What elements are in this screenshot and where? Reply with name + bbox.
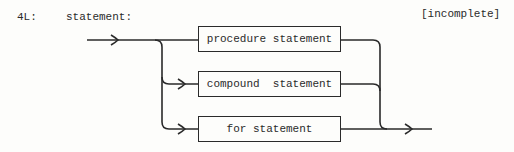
compound-statement-box: compound statement	[198, 71, 341, 97]
figure-label: 4L:	[17, 11, 37, 23]
rule-name: statement:	[66, 11, 132, 23]
box-label: procedure statement	[207, 33, 332, 45]
box-label: compound statement	[207, 78, 332, 90]
for-statement-box: for statement	[198, 116, 341, 142]
incomplete-note: [incomplete]	[421, 8, 500, 20]
procedure-statement-box: procedure statement	[198, 26, 341, 52]
box-label: for statement	[227, 123, 313, 135]
